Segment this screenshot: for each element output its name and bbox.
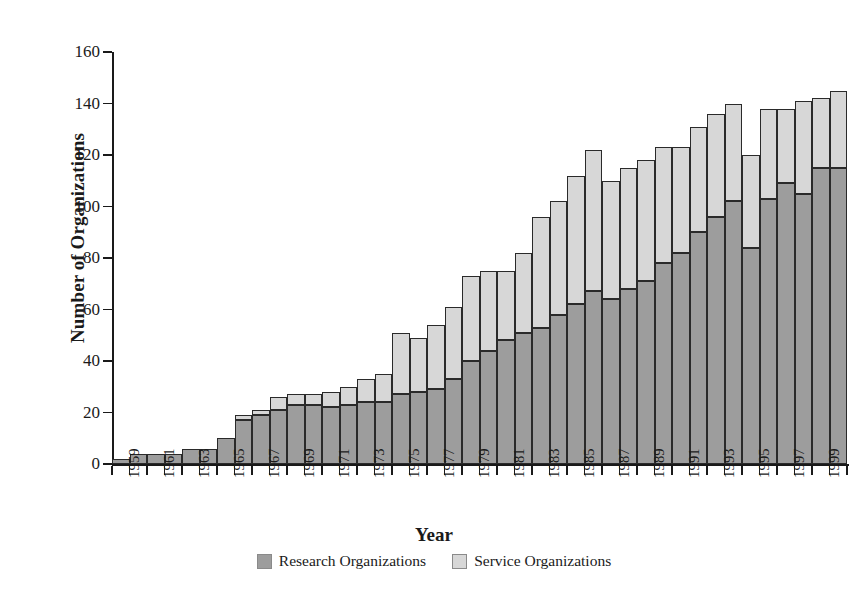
bar-segment-service <box>235 415 253 420</box>
bar-segment-service <box>392 333 410 395</box>
bar-1989 <box>637 52 655 464</box>
bar-segment-service <box>812 98 830 168</box>
x-axis-tick <box>199 466 201 475</box>
bar-1964 <box>200 52 218 464</box>
legend-item-service: Service Organizations <box>452 552 611 570</box>
bar-segment-research <box>620 289 638 464</box>
x-axis-tick <box>846 466 848 475</box>
bar-segment-service <box>760 109 778 199</box>
bar-segment-research <box>515 333 533 464</box>
bar-1975 <box>392 52 410 464</box>
bar-segment-service <box>830 91 848 168</box>
x-axis-tick <box>339 466 341 475</box>
bar-1976 <box>410 52 428 464</box>
legend-label-service: Service Organizations <box>474 552 611 570</box>
bar-segment-service <box>340 387 358 405</box>
x-axis-tick <box>706 466 708 475</box>
bar-segment-research <box>690 232 708 464</box>
x-axis-tick <box>111 466 113 475</box>
bar-1965 <box>217 52 235 464</box>
x-axis-tick <box>566 466 568 475</box>
x-axis-tick <box>584 466 586 475</box>
bar-segment-service <box>637 160 655 281</box>
y-axis-tick-label: 40 <box>40 352 100 369</box>
chart-container: Number of Organizations 0204060801001201… <box>0 0 868 603</box>
bar-segment-service <box>585 150 603 292</box>
bar-segment-research <box>707 217 725 464</box>
bar-segment-service <box>550 201 568 314</box>
x-axis-tick <box>269 466 271 475</box>
bar-1979 <box>462 52 480 464</box>
bar-segment-research <box>585 291 603 464</box>
bar-segment-research <box>672 253 690 464</box>
bar-segment-service <box>252 410 270 415</box>
bar-1999 <box>812 52 830 464</box>
bar-1987 <box>602 52 620 464</box>
x-axis-tick <box>426 466 428 475</box>
bar-1986 <box>585 52 603 464</box>
x-axis-tick <box>636 466 638 475</box>
y-axis-tick <box>103 360 112 362</box>
bar-segment-service <box>357 379 375 402</box>
bar-segment-research <box>795 194 813 464</box>
bar-1977 <box>427 52 445 464</box>
x-axis-tick <box>391 466 393 475</box>
x-axis-tick <box>514 466 516 475</box>
x-axis-tick <box>129 466 131 475</box>
chart-legend: Research Organizations Service Organizat… <box>0 552 868 570</box>
x-axis-tick <box>811 466 813 475</box>
bar-1972 <box>340 52 358 464</box>
bar-segment-research <box>480 351 498 464</box>
bar-1996 <box>760 52 778 464</box>
x-axis-tick <box>759 466 761 475</box>
bar-segment-service <box>602 181 620 299</box>
x-axis-tick <box>741 466 743 475</box>
x-axis-tick <box>356 466 358 475</box>
x-axis-tick <box>304 466 306 475</box>
bar-segment-research <box>602 299 620 464</box>
bar-segment-service <box>742 155 760 248</box>
bar-1984 <box>550 52 568 464</box>
bar-1968 <box>270 52 288 464</box>
bar-1993 <box>707 52 725 464</box>
x-axis-tick <box>181 466 183 475</box>
x-axis-tick <box>794 466 796 475</box>
bar-segment-research <box>812 168 830 464</box>
x-axis-tick <box>619 466 621 475</box>
y-axis-tick <box>103 309 112 311</box>
y-axis-tick <box>103 154 112 156</box>
x-axis-tick <box>671 466 673 475</box>
x-axis-tick <box>374 466 376 475</box>
x-axis-tick <box>776 466 778 475</box>
x-axis-tick <box>216 466 218 475</box>
bar-segment-service <box>707 114 725 217</box>
bar-segment-service <box>672 147 690 253</box>
y-axis-tick <box>103 103 112 105</box>
y-axis-tick-label: 160 <box>40 43 100 60</box>
y-axis-tick <box>103 412 112 414</box>
x-axis-tick <box>724 466 726 475</box>
legend-item-research: Research Organizations <box>257 552 426 570</box>
bar-1997 <box>777 52 795 464</box>
bar-1991 <box>672 52 690 464</box>
bar-segment-service <box>620 168 638 289</box>
bar-1962 <box>165 52 183 464</box>
bar-1978 <box>445 52 463 464</box>
x-axis-title: Year <box>0 524 868 546</box>
x-axis-tick <box>286 466 288 475</box>
bar-1966 <box>235 52 253 464</box>
bar-segment-research <box>567 304 585 464</box>
y-axis-tick-label: 0 <box>40 455 100 472</box>
bar-segment-research <box>830 168 848 464</box>
x-axis-tick <box>654 466 656 475</box>
bar-1994 <box>725 52 743 464</box>
y-axis-tick-label: 120 <box>40 146 100 163</box>
bar-segment-service <box>322 392 340 407</box>
bar-segment-service <box>445 307 463 379</box>
service-swatch-icon <box>452 554 467 569</box>
bar-segment-research <box>725 201 743 464</box>
legend-label-research: Research Organizations <box>279 552 426 570</box>
bar-segment-service <box>287 394 305 404</box>
x-axis-tick <box>409 466 411 475</box>
bar-segment-research <box>655 263 673 464</box>
